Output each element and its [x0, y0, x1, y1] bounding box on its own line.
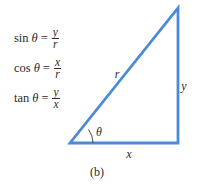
function-name: cos [14, 61, 31, 76]
angle-variable: θ [32, 91, 38, 106]
angle-arc [89, 129, 94, 143]
numerator: y [52, 27, 59, 39]
equals-sign: = [41, 91, 48, 106]
fraction: y x [52, 87, 59, 110]
cosine-formula: cos θ = x r [14, 55, 61, 81]
numerator: y [52, 87, 59, 99]
function-name: sin [14, 31, 29, 46]
denominator: r [52, 39, 58, 50]
hypotenuse-label: r [115, 67, 120, 82]
denominator: x [52, 99, 59, 110]
fraction: y r [52, 27, 59, 50]
angle-theta-label: θ [96, 125, 102, 140]
function-name: tan [14, 91, 29, 106]
angle-variable: θ [32, 31, 38, 46]
right-triangle [70, 8, 178, 143]
figure-caption: (b) [90, 165, 104, 180]
sine-formula: sin θ = y r [14, 25, 59, 51]
fraction: x r [54, 57, 61, 80]
angle-variable: θ [34, 61, 40, 76]
opposite-side-label: y [181, 79, 186, 94]
denominator: r [54, 69, 60, 80]
tangent-formula: tan θ = y x [14, 85, 60, 111]
numerator: x [54, 57, 61, 69]
adjacent-side-label: x [126, 147, 131, 162]
equals-sign: = [43, 61, 50, 76]
equals-sign: = [41, 31, 48, 46]
